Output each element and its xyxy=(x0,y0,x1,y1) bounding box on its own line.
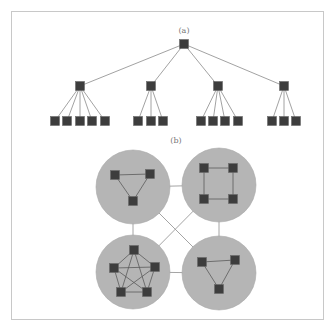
tree-edge xyxy=(151,86,163,121)
graph-node xyxy=(130,246,139,255)
tree-edge xyxy=(184,44,218,86)
tree-leaf-node xyxy=(134,117,143,126)
tree-leaf-node xyxy=(197,117,206,126)
tree-leaf-node xyxy=(268,117,277,126)
graph-node xyxy=(215,285,224,294)
panel-a-label: (a) xyxy=(178,26,189,35)
tree-leaf-node xyxy=(292,117,301,126)
graph-node xyxy=(143,288,152,297)
tree-edge xyxy=(272,86,284,121)
tree-leaf-node xyxy=(51,117,60,126)
tree-leaf-node xyxy=(147,117,156,126)
tree-leaf-node xyxy=(88,117,97,126)
graph-node xyxy=(129,197,138,206)
graph-node xyxy=(231,256,240,265)
tree-leaf-node xyxy=(101,117,110,126)
tree-edge xyxy=(284,86,296,121)
graph-node xyxy=(198,258,207,267)
panel-a-tree xyxy=(51,40,301,126)
triangle-cluster-top-left xyxy=(96,150,170,224)
tree-leaf-node xyxy=(280,117,289,126)
cluster-circle xyxy=(182,236,256,310)
graph-node xyxy=(110,264,119,273)
graph-node xyxy=(151,263,160,272)
graph-node xyxy=(117,288,126,297)
tree-edge xyxy=(80,86,92,121)
tree-leaf-node xyxy=(221,117,230,126)
tree-internal-node xyxy=(76,82,85,91)
tree-leaf-node xyxy=(63,117,72,126)
tree-internal-node xyxy=(147,82,156,91)
tree-internal-node xyxy=(214,82,223,91)
tree-internal-node xyxy=(280,82,289,91)
tree-edge xyxy=(55,86,80,121)
panel-b-clustered-graph xyxy=(96,148,256,310)
tree-edge xyxy=(80,44,184,86)
triangle-cluster-bottom-right xyxy=(182,236,256,310)
tree-edge xyxy=(138,86,151,121)
tree-root-node xyxy=(180,40,189,49)
figure-canvas: (a) (b) xyxy=(0,0,333,329)
tree-edge xyxy=(218,86,225,121)
graph-node xyxy=(229,164,238,173)
square-cluster-top-right xyxy=(182,148,256,222)
tree-leaf-node xyxy=(234,117,243,126)
cluster-circle xyxy=(96,150,170,224)
tree-leaf-node xyxy=(159,117,168,126)
tree-edge xyxy=(184,44,284,86)
cluster-circle xyxy=(182,148,256,222)
graph-node xyxy=(229,195,238,204)
tree-leaf-node xyxy=(76,117,85,126)
tree-edge xyxy=(67,86,80,121)
graph-node xyxy=(200,195,209,204)
graph-node xyxy=(200,164,209,173)
pentagon-cluster-bottom-left xyxy=(96,235,170,309)
panel-b-label: (b) xyxy=(170,136,181,145)
tree-edge xyxy=(80,86,105,121)
tree-leaf-node xyxy=(209,117,218,126)
tree-edge xyxy=(218,86,238,121)
graph-node xyxy=(146,170,155,179)
graph-node xyxy=(111,171,120,180)
